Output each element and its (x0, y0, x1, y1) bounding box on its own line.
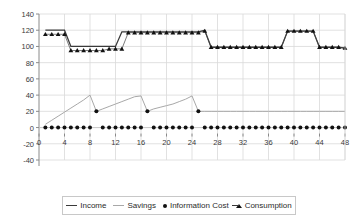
series-information-cost-marker (324, 126, 328, 130)
y-tick-label: 120 (21, 26, 34, 35)
series-information-cost-marker (63, 126, 67, 130)
series-information-cost-marker (69, 126, 73, 130)
x-tick-label: 12 (111, 138, 119, 147)
series-information-cost-marker (260, 126, 264, 130)
series-information-cost-marker (184, 126, 188, 130)
x-tick-label: 44 (315, 138, 323, 147)
series-information-cost-marker (43, 126, 47, 130)
series-information-cost-marker (298, 126, 302, 130)
series-information-cost-marker (247, 126, 251, 130)
series-information-cost-marker (120, 126, 124, 130)
series-information-cost-marker (126, 126, 130, 130)
legend-item-savings: Savings (113, 202, 155, 210)
legend-label-consumption: Consumption (245, 202, 292, 210)
y-tick-label: 140 (21, 10, 34, 19)
series-information-cost-marker (145, 109, 149, 113)
y-tick-label: 20 (26, 107, 34, 116)
series-information-cost-marker (114, 126, 118, 130)
series-information-cost-marker (107, 126, 111, 130)
y-tick-label: 80 (26, 59, 34, 68)
series-information-cost-marker (222, 126, 226, 130)
series-information-cost-marker (88, 126, 92, 130)
legend-label-savings: Savings (127, 202, 155, 210)
series-information-cost-marker (101, 126, 105, 130)
series-information-cost-marker (292, 126, 296, 130)
series-information-cost-marker (50, 126, 54, 130)
series-information-cost-marker (216, 126, 220, 130)
x-tick-label: 16 (137, 138, 145, 147)
triangle-line-icon (236, 204, 242, 208)
legend-item-income: Income (66, 202, 106, 210)
series-information-cost-marker (196, 109, 200, 113)
x-tick-label: 24 (188, 138, 196, 147)
series-information-cost-marker (75, 126, 79, 130)
series-information-cost-marker (235, 126, 239, 130)
series-information-cost-marker (267, 126, 271, 130)
x-tick-label: 32 (239, 138, 247, 147)
x-tick-label: 36 (264, 138, 272, 147)
series-information-cost-marker (286, 126, 290, 130)
series-information-cost-marker (330, 126, 334, 130)
series-information-cost-marker (241, 126, 245, 130)
series-information-cost-marker (279, 126, 283, 130)
series-information-cost-marker (228, 126, 232, 130)
line-icon (66, 205, 77, 206)
y-tick-label: 0 (30, 124, 34, 133)
series-information-cost-marker (318, 126, 322, 130)
legend-item-information-cost: Information Cost (163, 202, 229, 210)
x-tick-label: 40 (290, 138, 298, 147)
series-information-cost-marker (311, 126, 315, 130)
y-tick-label: 100 (21, 42, 34, 51)
series-information-cost-marker (177, 126, 181, 130)
series-information-cost-marker (165, 126, 169, 130)
x-tick-label: 0 (37, 138, 41, 147)
series-information-cost-marker (158, 126, 162, 130)
chart-plot-area: -40-200204060801001201400481216202428323… (0, 0, 355, 222)
legend-item-consumption: Consumption (236, 202, 292, 210)
dot-icon (163, 204, 167, 208)
chart-container: -40-200204060801001201400481216202428323… (0, 0, 355, 222)
y-tick-label: -20 (23, 140, 34, 149)
x-tick-label: 4 (62, 138, 66, 147)
chart-legend: Income Savings Information Cost Consumpt… (62, 196, 296, 215)
series-information-cost-marker (254, 126, 258, 130)
series-information-cost-marker (209, 126, 213, 130)
series-information-cost-marker (171, 126, 175, 130)
series-information-cost-marker (56, 126, 60, 130)
series-information-cost-marker (94, 109, 98, 113)
legend-label-income: Income (80, 202, 106, 210)
series-information-cost-marker (203, 126, 207, 130)
series-information-cost-marker (152, 126, 156, 130)
series-information-cost-marker (337, 126, 341, 130)
series-information-cost-marker (305, 126, 309, 130)
series-information-cost-marker (82, 126, 86, 130)
line-gray-icon (113, 205, 124, 206)
y-tick-label: -40 (23, 156, 34, 165)
series-information-cost-marker (190, 126, 194, 130)
y-tick-label: 40 (26, 91, 34, 100)
x-tick-label: 8 (88, 138, 92, 147)
y-tick-label: 60 (26, 75, 34, 84)
series-information-cost-marker (139, 126, 143, 130)
series-information-cost-marker (133, 126, 137, 130)
x-tick-label: 20 (162, 138, 170, 147)
series-information-cost-marker (273, 126, 277, 130)
x-tick-label: 28 (213, 138, 221, 147)
legend-label-information-cost: Information Cost (170, 202, 229, 210)
